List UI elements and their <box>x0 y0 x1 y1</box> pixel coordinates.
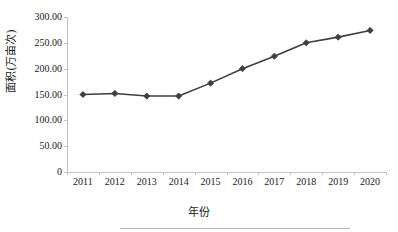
bottom-divider <box>120 228 350 229</box>
data-point-marker <box>335 34 341 40</box>
data-point-marker <box>144 93 150 99</box>
axis-ticks <box>64 18 387 176</box>
x-axis-title: 年份 <box>0 203 398 219</box>
data-point-marker <box>176 93 182 99</box>
data-point-marker <box>239 66 245 72</box>
data-series-line <box>83 30 370 96</box>
data-point-marker <box>367 27 373 33</box>
data-point-marker <box>271 53 277 59</box>
x-tick-label: 2020 <box>348 176 392 188</box>
line-chart: 面积(万亩次) 050.00100.00150.00200.00250.0030… <box>0 0 398 232</box>
data-point-marker <box>303 40 309 46</box>
data-point-marker <box>112 90 118 96</box>
x-axis-tick-labels: 2011201220132014201520162017201820192020 <box>68 176 386 192</box>
data-point-marker <box>80 91 86 97</box>
data-point-marker <box>207 80 213 86</box>
plot-area <box>0 0 398 232</box>
